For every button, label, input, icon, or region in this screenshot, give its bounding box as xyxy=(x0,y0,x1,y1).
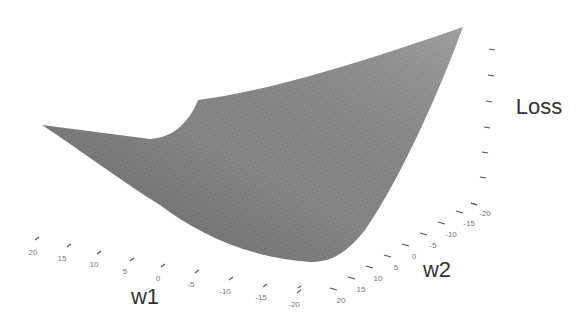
w1-tick: 10 xyxy=(90,260,99,269)
w1-tick: 20 xyxy=(29,248,38,257)
w1-tick: -10 xyxy=(219,287,231,296)
w1-tick: 0 xyxy=(156,274,160,283)
w2-tick: 0 xyxy=(412,252,416,261)
w2-tick: -20 xyxy=(479,209,491,218)
w1-tick: -20 xyxy=(288,300,300,309)
w2-axis-label: w2 xyxy=(423,257,451,283)
w2-tick: 10 xyxy=(374,274,383,283)
w1-axis-label: w1 xyxy=(131,284,159,310)
w1-tick: -15 xyxy=(255,293,267,302)
w1-tick: 15 xyxy=(58,254,67,263)
loss-axis-label: Loss xyxy=(516,94,562,120)
w2-tick: 5 xyxy=(394,263,398,272)
w2-tick: 15 xyxy=(357,285,366,294)
surface xyxy=(42,27,463,262)
w2-tick: -10 xyxy=(445,230,457,239)
loss-axis-ticks xyxy=(471,49,495,205)
loss-surface-plot xyxy=(0,0,583,317)
w2-tick: 20 xyxy=(337,296,346,305)
w1-tick: -5 xyxy=(187,280,194,289)
w1-tick: 5 xyxy=(123,267,127,276)
w2-tick: -15 xyxy=(463,219,475,228)
w2-tick: -5 xyxy=(429,241,436,250)
